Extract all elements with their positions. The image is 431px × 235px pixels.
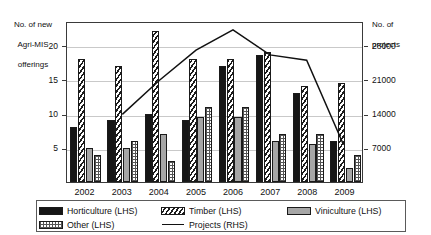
x-tick-label-2008: 2008 (288, 187, 326, 197)
legend-item-other[interactable]: Other (LHS) (39, 218, 114, 231)
x-tick-label-2006: 2006 (214, 187, 252, 197)
y-tick-label-left: 15 (32, 76, 58, 85)
x-tick-label-2009: 2009 (325, 187, 363, 197)
x-tick-label-2002: 2002 (66, 187, 104, 197)
legend-label: Other (LHS) (67, 220, 114, 230)
y-tickmark-right (364, 115, 368, 116)
left-axis-title-line-3: offerings (2, 60, 64, 70)
legend-item-horticulture[interactable]: Horticulture (LHS) (39, 204, 137, 217)
y-tickmark-left (62, 115, 66, 116)
x-tick-label-2004: 2004 (140, 187, 178, 197)
y-tick-label-left: 10 (32, 110, 58, 119)
y-tick-label-left: 20 (32, 42, 58, 51)
legend-label: Horticulture (LHS) (67, 206, 137, 216)
y-tickmark-left (62, 149, 66, 150)
x-tick-label-2003: 2003 (103, 187, 141, 197)
y-tick-label-right: 28000 (372, 42, 414, 51)
legend-label: Viniculture (LHS) (315, 206, 381, 216)
y-tick-label-right: 7000 (372, 144, 414, 153)
y-tick-label-right: 21000 (372, 76, 414, 85)
y-tickmark-left (62, 46, 66, 47)
legend-swatch-other (39, 221, 63, 229)
y-tickmark-right (364, 149, 368, 150)
legend-label: Projects (RHS) (189, 220, 248, 230)
right-axis-title: No. of projects (372, 10, 430, 60)
projects-line-series (67, 23, 362, 182)
plot-area (66, 22, 363, 183)
x-tick-label-2007: 2007 (251, 187, 289, 197)
x-tick-label-2005: 2005 (177, 187, 215, 197)
y-tickmark-right (364, 80, 368, 81)
y-tickmark-right (364, 46, 368, 47)
chart-figure: No. of new Agri-MIS offerings No. of pro… (0, 0, 431, 235)
legend-swatch-viniculture (287, 207, 311, 215)
chart-legend: Horticulture (LHS)Timber (LHS)Vinicultur… (36, 200, 406, 232)
legend-swatch-horticulture (39, 207, 63, 215)
y-tick-label-right: 14000 (372, 110, 414, 119)
right-axis-title-line-1: No. of (372, 20, 430, 30)
legend-item-timber[interactable]: Timber (LHS) (161, 204, 241, 217)
legend-item-projects[interactable]: Projects (RHS) (161, 218, 248, 231)
left-axis-title-line-1: No. of new (2, 20, 64, 30)
legend-swatch-timber (161, 207, 185, 215)
legend-item-viniculture[interactable]: Viniculture (LHS) (287, 204, 381, 217)
legend-label: Timber (LHS) (189, 206, 241, 216)
y-tick-label-left: 5 (32, 144, 58, 153)
y-tickmark-left (62, 80, 66, 81)
legend-swatch-projects (162, 224, 184, 225)
